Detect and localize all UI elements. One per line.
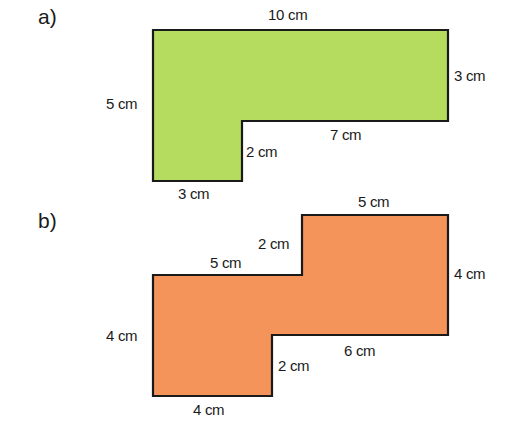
figure-b-dim-upper-step-vertical: 2 cm [258,236,289,251]
figure-b-dim-bottom: 4 cm [193,402,224,417]
figure-a-label: a) [38,6,57,27]
figure-a-dim-inner-horizontal: 7 cm [330,127,361,142]
figure-b-dim-right: 4 cm [454,266,485,281]
figure-b-dim-left: 4 cm [106,328,137,343]
figure-b-dim-upper-left-horizontal: 5 cm [210,255,241,270]
figure-b-dim-lower-step-horizontal: 6 cm [344,343,375,358]
figure-a-dim-bottom: 3 cm [178,186,209,201]
shapes-canvas [0,0,516,448]
figure-b-dim-top: 5 cm [358,194,389,209]
figure-b-dim-lower-step-vertical: 2 cm [278,358,309,373]
figure-a-l-shape [153,30,448,181]
figure-a-dim-right: 3 cm [454,68,485,83]
figure-a-dim-inner-vertical: 2 cm [246,144,277,159]
figure-a-dim-left: 5 cm [106,96,137,111]
figure-b-label: b) [38,210,57,231]
figure-a-dim-top: 10 cm [268,7,307,22]
